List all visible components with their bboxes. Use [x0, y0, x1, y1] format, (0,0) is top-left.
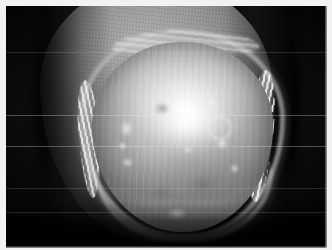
specular-highlight [146, 80, 228, 154]
plate-hairline-bottom [6, 246, 327, 248]
photograph-plate [6, 6, 327, 248]
plate-hairline-right [325, 6, 327, 248]
bottom-shadow [6, 202, 327, 248]
photo-frame [0, 0, 332, 250]
